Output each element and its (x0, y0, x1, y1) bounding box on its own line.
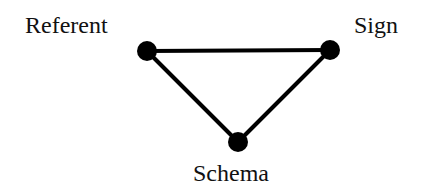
edge-schema-referent (147, 51, 238, 142)
label-sign: Sign (354, 12, 398, 38)
diagram-svg: Referent Sign Schema (0, 0, 425, 186)
semiotic-triangle-diagram: Referent Sign Schema (0, 0, 425, 186)
node-schema (228, 132, 248, 152)
label-schema: Schema (193, 160, 269, 186)
node-sign (320, 40, 340, 60)
edge-referent-sign (147, 50, 330, 51)
label-referent: Referent (25, 12, 108, 38)
node-referent (137, 41, 157, 61)
edge-sign-schema (238, 50, 330, 142)
